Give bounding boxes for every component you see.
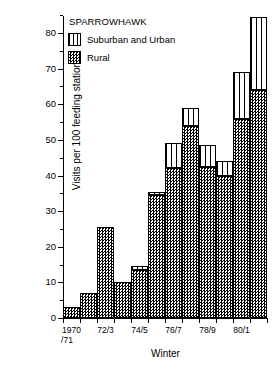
y-tick-label-80: 80 — [45, 28, 56, 38]
bar-segment-rural — [63, 307, 80, 318]
bar-71-2[interactable] — [80, 293, 97, 318]
bar-segment-rural — [199, 167, 216, 318]
bar-segment-rural — [97, 227, 114, 318]
bar-segment-rural — [165, 168, 182, 318]
x-tick-3 — [114, 318, 115, 323]
y-tick-label-50: 50 — [45, 135, 56, 145]
bar-segment-suburban-and-urban — [131, 266, 148, 270]
y-tick-label-10: 10 — [45, 278, 56, 288]
x-tick-label-78-9: 78/9 — [199, 325, 216, 335]
x-tick-5 — [148, 318, 149, 323]
x-tick-label-72-3: 72/3 — [97, 325, 114, 335]
y-tick-label-30: 30 — [45, 206, 56, 216]
y-tick-label-70: 70 — [45, 64, 56, 74]
x-tick-11 — [250, 318, 251, 323]
legend-label-rural: Rural — [87, 52, 110, 63]
x-tick-label-74-5: 74/5 — [131, 325, 148, 335]
chart-figure: 01020304050607080 Visits per 100 feeding… — [0, 0, 276, 370]
x-tick-1 — [80, 318, 81, 323]
bar-segment-rural — [131, 270, 148, 318]
x-tick-label-76-7: 76/7 — [165, 325, 182, 335]
x-tick-0 — [63, 318, 64, 323]
bar-77-8[interactable] — [182, 108, 199, 318]
x-tick-6 — [165, 318, 166, 323]
bar-74-5[interactable] — [131, 266, 148, 318]
bar-75-6[interactable] — [148, 192, 165, 318]
bar-segment-rural — [182, 126, 199, 318]
bar-segment-rural — [233, 119, 250, 319]
legend-item-suburban-and-urban: Suburban and Urban — [68, 33, 218, 46]
bar-73-4[interactable] — [114, 282, 131, 318]
legend-swatch-urban-icon — [68, 33, 81, 46]
bar-76-7[interactable] — [165, 143, 182, 318]
bar-segment-suburban-and-urban — [250, 17, 267, 90]
y-tick-label-20: 20 — [45, 242, 56, 252]
bar-72-3[interactable] — [97, 227, 114, 318]
bar-segment-rural — [80, 293, 97, 318]
bar-segment-rural — [250, 90, 267, 318]
legend-label-suburban-and-urban: Suburban and Urban — [87, 34, 175, 45]
x-axis-title: Winter — [63, 348, 268, 359]
chart-legend: SPARROWHAWK Suburban and Urban Rural — [68, 16, 218, 69]
x-tick-9 — [216, 318, 217, 323]
bar-81-2[interactable] — [250, 17, 267, 318]
x-tick-8 — [199, 318, 200, 323]
x-tick-2 — [97, 318, 98, 323]
bar-80-1[interactable] — [233, 72, 250, 318]
bar-segment-rural — [114, 282, 131, 318]
bar-segment-suburban-and-urban — [233, 72, 250, 118]
bar-segment-rural — [148, 195, 165, 318]
bar-79-80[interactable] — [216, 161, 233, 318]
x-tick-4 — [131, 318, 132, 323]
bar-segment-suburban-and-urban — [148, 192, 165, 196]
x-tick-12 — [267, 318, 268, 323]
bar-78-9[interactable] — [199, 145, 216, 318]
bar-segment-suburban-and-urban — [216, 161, 233, 175]
bar-segment-suburban-and-urban — [182, 108, 199, 126]
y-tick-label-0: 0 — [51, 313, 56, 323]
bar-segment-suburban-and-urban — [165, 143, 182, 168]
bar-1970-71[interactable] — [63, 307, 80, 318]
bar-segment-suburban-and-urban — [199, 145, 216, 166]
legend-swatch-rural-icon — [68, 51, 81, 64]
y-tick-85 — [60, 15, 63, 16]
x-tick-label-1970: 1970/71 — [62, 325, 81, 345]
x-tick-label-80-1: 80/1 — [233, 325, 250, 335]
y-tick-label-60: 60 — [45, 100, 56, 110]
y-tick-label-40: 40 — [45, 171, 56, 181]
x-tick-7 — [182, 318, 183, 323]
chart-title: SPARROWHAWK — [69, 16, 218, 27]
x-tick-10 — [233, 318, 234, 323]
legend-item-rural: Rural — [68, 51, 218, 64]
bar-segment-rural — [216, 176, 233, 319]
